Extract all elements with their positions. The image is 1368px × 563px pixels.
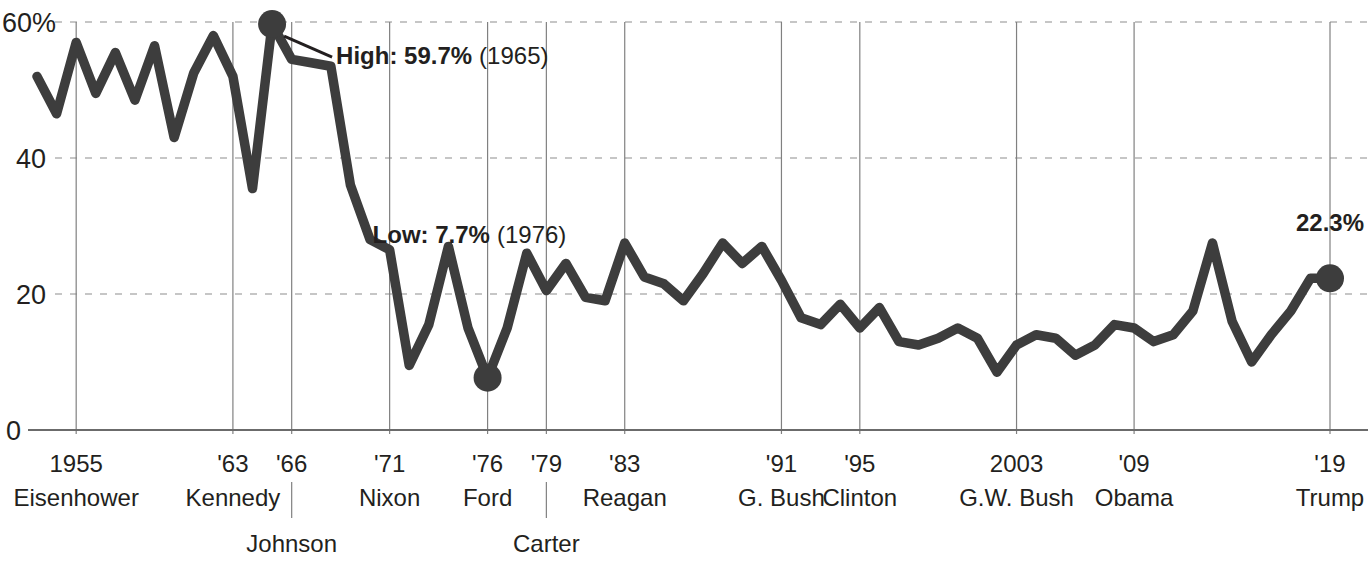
x-axis-year-2003: 2003: [990, 450, 1043, 477]
low-point-marker: [474, 364, 502, 392]
x-axis-president-eisenhower: Eisenhower: [13, 484, 138, 511]
x-axis-year-91: '91: [766, 450, 797, 477]
y-axis-label-0: 0: [6, 416, 21, 446]
line-chart: 0204060%High: 59.7%(1965)Low: 7.7%(1976)…: [0, 0, 1368, 563]
x-axis-year-66: '66: [276, 450, 307, 477]
high-annotation-label: High: 59.7%(1965): [336, 42, 548, 69]
low-annotation-year: (1976): [497, 221, 566, 248]
x-axis-year-79: '79: [531, 450, 562, 477]
x-axis-year-76: '76: [472, 450, 503, 477]
x-axis-president-trump: Trump: [1296, 484, 1364, 511]
end-value-label: 22.3%: [1296, 209, 1364, 236]
x-axis-president-nixon: Nixon: [359, 484, 420, 511]
y-axis-label-20: 20: [16, 280, 46, 310]
x-axis-president-carter: Carter: [513, 530, 580, 557]
data-line: [37, 24, 1330, 378]
end-point-marker: [1316, 264, 1344, 292]
x-axis-president-reagan: Reagan: [583, 484, 667, 511]
x-axis-year-09: '09: [1118, 450, 1149, 477]
x-axis-president-clinton: Clinton: [822, 484, 897, 511]
x-axis-year-71: '71: [374, 450, 405, 477]
x-axis-year-1955: 1955: [49, 450, 102, 477]
x-axis-year-95: '95: [844, 450, 875, 477]
high-annotation-year: (1965): [479, 42, 548, 69]
y-axis-label-60: 60%: [2, 8, 56, 38]
x-axis-year-83: '83: [609, 450, 640, 477]
low-annotation-value: Low: 7.7%: [373, 221, 490, 248]
y-axis-label-40: 40: [16, 144, 46, 174]
x-axis-president-gwbush: G.W. Bush: [959, 484, 1074, 511]
x-axis-president-kennedy: Kennedy: [186, 484, 281, 511]
low-annotation-label: Low: 7.7%(1976): [373, 221, 567, 248]
x-axis-president-johnson: Johnson: [246, 530, 337, 557]
x-axis-president-ford: Ford: [463, 484, 512, 511]
high-point-marker: [258, 10, 286, 38]
chart-container: 0204060%High: 59.7%(1965)Low: 7.7%(1976)…: [0, 0, 1368, 563]
high-annotation-value: High: 59.7%: [336, 42, 472, 69]
x-axis-president-obama: Obama: [1095, 484, 1174, 511]
x-axis-president-gbush: G. Bush: [738, 484, 825, 511]
x-axis-year-63: '63: [217, 450, 248, 477]
x-axis-year-19: '19: [1314, 450, 1345, 477]
